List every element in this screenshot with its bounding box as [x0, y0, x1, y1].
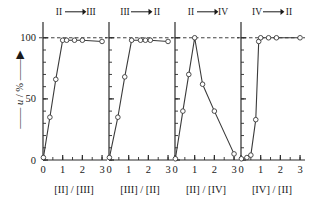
data-point-marker [48, 115, 53, 120]
data-point-marker [148, 38, 153, 43]
panel-title-to: III [86, 7, 96, 17]
x-tick-label: 1 [126, 164, 131, 175]
y-axis-label-suffix: ——▶ [14, 51, 25, 80]
data-point-marker [122, 75, 127, 80]
y-axis-label-unit: / % [14, 83, 25, 97]
data-point-marker [80, 38, 85, 43]
data-point-marker [186, 72, 191, 77]
data-point-marker [72, 38, 77, 43]
data-point-marker [200, 82, 205, 87]
x-axis-label: [II] / [III] [54, 184, 94, 195]
arrow-head-icon [149, 9, 153, 15]
data-point-marker [274, 35, 279, 40]
chart-panel-4 [237, 9, 305, 161]
data-point-marker [266, 35, 271, 40]
x-tick-label: 2 [80, 164, 85, 175]
arrow-head-icon [281, 9, 285, 15]
data-point-marker [166, 39, 171, 44]
panel-title-from: IV [252, 7, 262, 17]
data-point-marker [129, 38, 134, 43]
data-point-marker [138, 38, 143, 43]
x-tick-label: 3 [231, 164, 236, 175]
x-tick-label: 3 [99, 164, 104, 175]
y-axis-label-container: —— u / % ——▶ [0, 0, 30, 203]
data-point-marker [107, 155, 112, 160]
data-point-marker [192, 35, 197, 40]
x-tick-label: 2 [146, 164, 151, 175]
panel-title-to: II [154, 7, 160, 17]
data-point-marker [41, 155, 46, 160]
x-axis-label: [II] / [IV] [186, 184, 226, 195]
x-tick-label: 0 [238, 164, 243, 175]
panel-title-from: II [56, 7, 62, 17]
x-axis-label: [IV] / [II] [252, 184, 292, 195]
data-point-marker [298, 35, 303, 40]
x-axis-label: [III] / [II] [120, 184, 160, 195]
figure-panel-group: 0501000123IIIII[II] / [III]0123IIIII[III… [0, 0, 321, 203]
x-tick-label: 1 [192, 164, 197, 175]
data-series-line [43, 40, 102, 157]
x-tick-label: 2 [212, 164, 217, 175]
data-point-marker [212, 109, 217, 114]
data-point-marker [232, 152, 237, 157]
x-tick-label: 3 [297, 164, 302, 175]
data-point-marker [64, 38, 69, 43]
data-point-marker [253, 117, 258, 122]
panel-title-to: II [286, 7, 292, 17]
y-tick-label: 0 [31, 155, 36, 166]
data-point-marker [143, 38, 148, 43]
data-point-marker [100, 39, 105, 44]
data-point-marker [173, 156, 178, 161]
x-tick-label: 0 [40, 164, 45, 175]
data-point-marker [258, 35, 263, 40]
data-point-marker [249, 153, 254, 158]
data-point-marker [53, 77, 58, 82]
data-point-marker [239, 156, 244, 161]
chart-panel-3 [171, 9, 239, 161]
x-tick-label: 3 [165, 164, 170, 175]
data-series-line [175, 38, 234, 159]
panel-title-to: IV [218, 7, 228, 17]
chart-panel-1 [39, 9, 107, 160]
data-point-marker [116, 115, 121, 120]
chart-panel-2 [105, 9, 173, 160]
x-tick-label: 1 [60, 164, 65, 175]
x-tick-label: 0 [172, 164, 177, 175]
x-tick-label: 2 [278, 164, 283, 175]
y-axis-label-prefix: —— [14, 108, 25, 129]
x-tick-label: 1 [258, 164, 263, 175]
multi-panel-line-chart: 0501000123IIIII[II] / [III]0123IIIII[III… [0, 0, 321, 203]
y-axis-label-variable: u [14, 100, 25, 105]
data-point-marker [181, 109, 186, 114]
data-series-line [109, 40, 168, 157]
x-tick-label: 0 [106, 164, 111, 175]
panel-title-from: III [120, 7, 130, 17]
panel-title-from: II [188, 7, 194, 17]
y-axis-label: —— u / % ——▶ [13, 25, 25, 155]
data-series-line [241, 38, 300, 159]
